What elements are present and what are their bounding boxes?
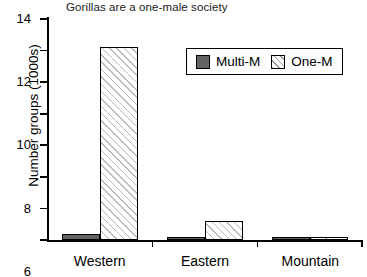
y-tick-label: 10 [17,137,31,152]
y-tick-label: 14 [17,11,31,26]
y-tick: 12 [40,50,47,52]
bar-mountain-multi-m [272,237,310,240]
y-tick: 8 [40,113,47,115]
y-tick-label: 6 [24,263,31,277]
y-tick: 6 [40,144,47,146]
x-tick [152,240,154,247]
y-tick: 0 [40,239,47,241]
legend-swatch-one-m-icon [271,55,285,69]
x-tick-label: Mountain [282,253,340,269]
y-tick: 14 [40,18,47,20]
y-tick: 2 [40,208,47,210]
x-tick-label: Western [74,253,126,269]
x-tick-label: Eastern [181,253,229,269]
bar-mountain-one-m [310,237,348,240]
legend-swatch-multi-m-icon [196,55,210,69]
bar-eastern-multi-m [167,237,205,240]
y-tick-label: 8 [24,200,31,215]
y-tick: 10 [40,81,47,83]
legend-entry-multi-m: Multi-M [196,54,260,69]
bar-western-multi-m [62,234,100,240]
legend-label-one-m: One-M [291,54,332,69]
bar-eastern-one-m [205,221,243,240]
chart-legend: Multi-M One-M [186,48,343,75]
legend-entry-one-m: One-M [271,54,332,69]
y-tick: 4 [40,176,47,178]
bar-western-one-m [100,47,138,240]
y-axis-label: Number groups (1000s) [26,21,41,211]
x-tick [257,240,259,247]
chart-title: Gorillas are a one-male society [66,1,228,13]
x-axis-line [47,240,363,242]
y-tick-label: 12 [17,74,31,89]
x-tick [361,240,363,247]
bar-chart: Gorillas are a one-male society Number g… [0,0,367,277]
legend-label-multi-m: Multi-M [216,54,260,69]
